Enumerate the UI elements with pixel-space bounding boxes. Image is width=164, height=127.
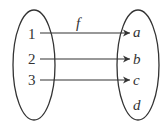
function-mapping-diagram: 1 2 3 a b c d f: [0, 0, 164, 127]
diagram-canvas: 1 2 3 a b c d f: [0, 0, 164, 127]
domain-element-3: 3: [28, 72, 36, 88]
codomain-element-d: d: [133, 97, 141, 113]
codomain-element-b: b: [133, 51, 141, 67]
domain-element-2: 2: [28, 51, 36, 67]
domain-element-1: 1: [28, 26, 36, 42]
function-label: f: [76, 15, 82, 31]
codomain-element-a: a: [133, 24, 141, 40]
codomain-element-c: c: [133, 72, 140, 88]
